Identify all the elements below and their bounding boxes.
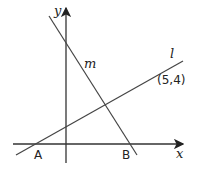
line-m-label: m [84,56,96,71]
point-5-4-label: (5,4) [157,73,185,87]
coordinate-diagram: y x m l (5,4) A B [0,0,197,170]
line-l-label: l [170,46,174,61]
line-m [49,16,137,155]
point-b-label: B [122,148,130,162]
x-axis-label: x [176,146,184,161]
y-axis-label: y [53,3,62,18]
point-a-label: A [34,148,43,162]
